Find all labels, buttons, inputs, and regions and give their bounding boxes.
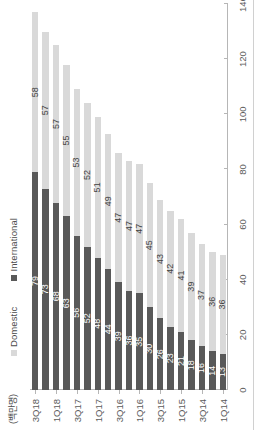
bar-segment-domestic: 45 (147, 183, 153, 307)
category-axis-tick (160, 390, 161, 394)
value-axis-tick (224, 168, 228, 169)
category-axis-tick (223, 390, 224, 394)
bar-group: 6355 (63, 65, 69, 390)
category-axis-tick-label: 3Q16 (113, 399, 124, 422)
category-axis-line (227, 4, 228, 390)
bar-group: 7958 (32, 12, 38, 390)
bar-value-label-international: 68 (52, 291, 61, 301)
category-axis-tick-label: 3Q18 (30, 399, 41, 422)
bar-value-label-domestic: 55 (62, 135, 71, 145)
bar-value-label-domestic: 52 (83, 170, 92, 180)
category-axis-tick-label: 1Q17 (92, 399, 103, 422)
bar-value-label-international: 35 (135, 337, 144, 347)
bar-value-label-international: 73 (41, 284, 50, 294)
value-axis-tick-label: 100 (237, 106, 248, 122)
category-axis-tick-label: 3Q15 (155, 399, 166, 422)
bar-segment-domestic: 43 (157, 200, 163, 319)
bar-segment-international: 68 (53, 203, 59, 390)
bar-segment-domestic: 42 (167, 211, 173, 327)
value-axis-tick-label: 140 (237, 0, 248, 12)
value-axis-tick (224, 224, 228, 225)
bar-group: 4851 (95, 117, 101, 390)
value-axis-tick-label: 60 (237, 219, 248, 230)
bar-group: 3045 (147, 183, 153, 390)
bar-value-label-international: 26 (156, 349, 165, 359)
bar-value-label-international: 48 (93, 319, 102, 329)
bar-segment-domestic: 58 (32, 12, 38, 172)
chart-legend: Domestic International (8, 218, 19, 356)
bar-group: 5252 (84, 103, 90, 390)
bar-group: 2141 (178, 219, 184, 390)
bar-segment-international: 56 (74, 236, 80, 390)
bar-value-label-domestic: 36 (208, 297, 217, 307)
bar-value-label-international: 18 (187, 360, 196, 370)
bar-segment-international: 79 (32, 172, 38, 390)
bar-segment-international: 23 (167, 327, 173, 390)
stacked-bar-chart: (백만명) Domestic International 02040608010… (2, 0, 254, 430)
bar-group: 4449 (105, 134, 111, 390)
bar-segment-domestic: 57 (53, 45, 59, 202)
value-axis-tick-label: 80 (237, 164, 248, 175)
bar-value-label-domestic: 47 (114, 213, 123, 223)
value-axis-tick-label: 120 (237, 51, 248, 67)
legend-label-domestic: Domestic (8, 307, 19, 347)
bar-value-label-international: 30 (145, 344, 154, 354)
value-axis-tick-label: 40 (237, 274, 248, 285)
value-axis-tick-label: 20 (237, 330, 248, 341)
chart-plot-wrapper: (백만명) Domestic International 02040608010… (2, 0, 254, 430)
bar-segment-international: 48 (95, 258, 101, 390)
category-axis-tick-label: 3Q17 (71, 399, 82, 422)
bar-value-label-international: 36 (125, 335, 134, 345)
bar-segment-international: 44 (105, 269, 111, 390)
value-axis-tick (224, 58, 228, 59)
bar-segment-domestic: 51 (95, 117, 101, 258)
bar-group: 3547 (136, 164, 142, 390)
value-axis-tick (224, 3, 228, 4)
axis-unit-label: (백만명) (6, 394, 19, 424)
category-axis-tick (139, 390, 140, 394)
bar-segment-domestic: 49 (105, 134, 111, 269)
category-axis-tick (119, 390, 120, 394)
bar-group: 2643 (157, 200, 163, 390)
bar-value-label-international: 13 (218, 367, 227, 377)
bar-group: 1336 (220, 255, 226, 390)
bar-value-label-international: 56 (72, 308, 81, 318)
bar-group: 7357 (42, 32, 48, 390)
legend-label-international: International (8, 218, 19, 272)
bar-value-label-international: 14 (208, 366, 217, 376)
bar-value-label-domestic: 53 (72, 158, 81, 168)
bar-value-label-domestic: 39 (187, 282, 196, 292)
bar-value-label-domestic: 43 (156, 254, 165, 264)
bar-segment-domestic: 37 (199, 244, 205, 346)
bar-value-label-domestic: 37 (197, 290, 206, 300)
bar-value-label-domestic: 42 (166, 264, 175, 274)
bar-value-label-domestic: 58 (31, 87, 40, 97)
bar-segment-domestic: 47 (136, 164, 142, 294)
bar-segment-domestic: 55 (63, 65, 69, 217)
bar-segment-domestic: 36 (220, 255, 226, 354)
legend-item-international: International (8, 218, 19, 281)
category-axis-tick-label: 1Q14 (217, 399, 228, 422)
plot-area: 02040608010012014013361Q14143616373Q1418… (30, 4, 228, 390)
bar-segment-domestic: 39 (188, 233, 194, 341)
bar-group: 2342 (167, 211, 173, 390)
bar-segment-international: 18 (188, 340, 194, 390)
value-axis-tick-label: 0 (237, 387, 248, 392)
legend-swatch-domestic (11, 350, 17, 356)
bar-value-label-international: 16 (197, 363, 206, 373)
category-axis-tick (98, 390, 99, 394)
category-axis-tick (77, 390, 78, 394)
bar-value-label-international: 23 (166, 353, 175, 363)
bar-value-label-international: 52 (83, 313, 92, 323)
bar-group: 3947 (115, 153, 121, 390)
category-axis-tick (56, 390, 57, 394)
bar-segment-domestic: 47 (115, 153, 121, 283)
bar-segment-international: 52 (84, 247, 90, 390)
bar-segment-international: 16 (199, 346, 205, 390)
bar-value-label-domestic: 51 (93, 182, 102, 192)
bar-segment-domestic: 53 (74, 89, 80, 235)
bar-segment-international: 21 (178, 332, 184, 390)
category-axis-tick (35, 390, 36, 394)
bar-segment-domestic: 52 (84, 103, 90, 246)
bar-value-label-international: 63 (62, 298, 71, 308)
